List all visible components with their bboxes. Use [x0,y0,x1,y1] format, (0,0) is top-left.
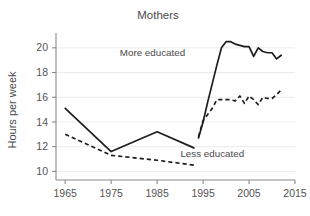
y-tick-label: 10 [36,165,48,177]
chart-container: Mothers 101214161820 1965197519851995200… [0,0,310,216]
y-tick-label: 16 [36,91,48,103]
x-tick-label: 1995 [191,187,215,199]
y-tick-label: 18 [36,66,48,78]
y-tick-label: 14 [36,116,48,128]
y-tick-label: 20 [36,41,48,53]
x-tick-label: 1975 [99,187,123,199]
gridlines-group [56,48,295,172]
x-tick-label: 2005 [237,187,261,199]
y-axis-ticks-group: 101214161820 [36,41,56,177]
x-tick-label: 1965 [54,187,78,199]
x-tick-label: 1985 [145,187,169,199]
series-line-more-educated [65,108,194,151]
y-axis-title: Hours per week [6,71,18,149]
series-label-less-educated: Less educated [180,148,244,159]
chart-title: Mothers [137,9,179,21]
series-line-more-educated [198,42,281,138]
y-tick-label: 12 [36,140,48,152]
x-axis-ticks-group: 196519751985199520052015 [54,180,307,199]
mothers-line-chart: Mothers 101214161820 1965197519851995200… [0,0,310,216]
series-label-more-educated: More educated [120,47,185,58]
x-tick-label: 2015 [283,187,307,199]
